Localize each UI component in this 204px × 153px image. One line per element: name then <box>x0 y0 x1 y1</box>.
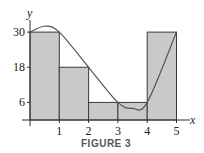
rectangle-bar-4 <box>118 102 147 120</box>
figure-caption: FIGURE 3 <box>81 138 131 149</box>
rectangle-bar-1 <box>30 32 59 120</box>
y-ticks: 61830 <box>13 25 30 109</box>
figure-3-chart: 61830 12345 y x FIGURE 3 <box>0 0 204 153</box>
x-tick-label: 2 <box>86 124 92 138</box>
bars-group <box>30 32 177 120</box>
x-tick-label: 1 <box>56 124 62 138</box>
x-tick-label: 4 <box>144 124 150 138</box>
rectangle-bar-5 <box>147 32 176 120</box>
x-ticks: 12345 <box>56 120 179 138</box>
rectangle-bar-3 <box>89 102 118 120</box>
x-tick-label: 3 <box>115 124 121 138</box>
x-tick-label: 5 <box>174 124 180 138</box>
rectangle-bar-2 <box>59 67 88 120</box>
x-axis-label: x <box>189 113 196 127</box>
y-tick-label: 6 <box>19 95 25 109</box>
y-tick-label: 18 <box>13 60 25 74</box>
y-tick-label: 30 <box>13 25 25 39</box>
y-axis-label: y <box>26 6 33 20</box>
